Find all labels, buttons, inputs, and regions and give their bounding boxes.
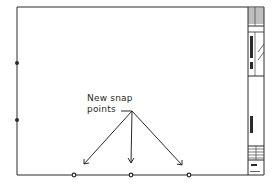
revision-table [248, 7, 264, 26]
sheet-scale-mark [250, 171, 260, 172]
sheet-border [17, 7, 264, 175]
title-block-label-1 [250, 36, 253, 58]
snap-point-bottom-1[interactable] [72, 173, 76, 177]
snap-point-bottom-3[interactable] [187, 173, 191, 177]
data-table [248, 146, 264, 160]
title-block-label-2 [250, 62, 253, 69]
snap-point-bottom-2[interactable] [129, 173, 133, 177]
title-block-label-3 [250, 116, 253, 133]
arrow-center [131, 111, 132, 163]
sheet-number-mark [251, 164, 257, 166]
annotation-line-1: New snap [87, 93, 133, 103]
snap-point-left-1[interactable] [15, 61, 19, 65]
arrow-left [84, 111, 132, 164]
drawing-sheet: New snap points [0, 0, 278, 188]
snap-points [15, 61, 191, 177]
snap-point-left-2[interactable] [15, 118, 19, 122]
annotation-line-2: points [87, 104, 116, 114]
arrow-right [132, 111, 182, 165]
leader-arrows [84, 111, 182, 165]
title-block [248, 7, 264, 175]
